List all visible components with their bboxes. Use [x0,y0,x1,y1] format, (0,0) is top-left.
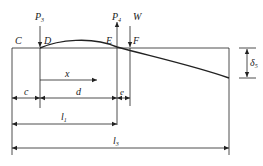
beam-deflection-diagram: P3 P4 W C D E F x c d e l1 l3 δ5 [0,0,263,166]
dim-l1-label: l1 [61,111,67,123]
dim-d-label: d [76,86,82,97]
dim-c-label: c [24,86,29,97]
point-c-label: C [15,35,22,46]
dim-delta5-label: δ5 [250,57,258,69]
load-p3-label: P3 [34,11,44,23]
dim-e-label: e [120,87,124,97]
point-f-label: F [132,35,140,46]
load-p4-label: P4 [111,11,121,23]
dim-l3-label: l3 [113,135,119,147]
point-e-label: E [105,35,112,46]
point-d-label: D [43,35,52,46]
dim-x-label: x [64,68,70,79]
load-w-label: W [133,11,143,22]
